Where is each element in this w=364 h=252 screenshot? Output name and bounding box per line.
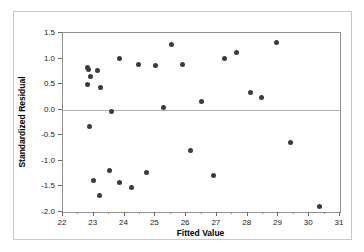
- x-axis-tick-label: 28: [242, 218, 251, 227]
- data-point: [117, 56, 122, 61]
- x-axis-tick-mark: [185, 212, 186, 216]
- y-axis-tick-mark: [58, 109, 62, 110]
- data-point: [222, 56, 227, 61]
- zero-reference-line: [63, 110, 340, 111]
- y-axis-tick-mark: [58, 83, 62, 84]
- x-axis-tick-label: 22: [58, 218, 67, 227]
- x-axis-title: Fitted Value: [62, 228, 339, 238]
- x-axis-tick-label: 26: [181, 218, 190, 227]
- data-point: [107, 168, 112, 173]
- y-axis-tick-mark: [58, 185, 62, 186]
- x-axis-minor-tick-mark: [108, 212, 109, 214]
- plot-area: [62, 32, 341, 213]
- data-point: [144, 170, 149, 175]
- data-point: [95, 68, 100, 73]
- data-point: [169, 42, 174, 47]
- data-point: [234, 50, 239, 55]
- y-axis-tick-mark: [58, 32, 62, 33]
- y-axis-tick-mark: [58, 160, 62, 161]
- data-point: [153, 63, 158, 68]
- scatter-plot: 1.51.00.50.0-0.5-1.0-1.5-2.0 22232425262…: [0, 0, 364, 252]
- data-point: [97, 193, 102, 198]
- y-axis-tick-label: -1.0: [41, 155, 55, 164]
- x-axis-minor-tick-mark: [170, 212, 171, 214]
- data-point: [199, 99, 204, 104]
- figure-canvas: 1.51.00.50.0-0.5-1.0-1.5-2.0 22232425262…: [0, 0, 364, 252]
- x-axis-minor-tick-mark: [77, 212, 78, 214]
- x-axis-tick-mark: [308, 212, 309, 216]
- x-axis-minor-tick-mark: [262, 212, 263, 214]
- data-point: [88, 74, 93, 79]
- x-axis-tick-mark: [154, 212, 155, 216]
- x-axis-tick-label: 31: [335, 218, 344, 227]
- data-point: [188, 148, 193, 153]
- y-axis-tick-label: -0.5: [41, 130, 55, 139]
- x-axis-tick-mark: [247, 212, 248, 216]
- y-axis-tick-label: 1.5: [44, 28, 55, 37]
- x-axis-tick-mark: [339, 212, 340, 216]
- y-axis-tick-mark: [58, 134, 62, 135]
- data-point: [136, 62, 141, 67]
- y-axis-title-text: Standardized Residual: [17, 76, 27, 167]
- x-axis-tick-label: 29: [273, 218, 282, 227]
- y-axis-title: Standardized Residual: [16, 32, 28, 211]
- data-point: [87, 124, 92, 129]
- data-point: [85, 82, 90, 87]
- data-point: [91, 178, 96, 183]
- x-axis-minor-tick-mark: [201, 212, 202, 214]
- data-point: [129, 185, 134, 190]
- x-axis-minor-tick-mark: [293, 212, 294, 214]
- y-axis-tick-label: -1.5: [41, 181, 55, 190]
- data-point: [86, 67, 91, 72]
- y-axis-tick-label: 0.5: [44, 79, 55, 88]
- data-point: [98, 85, 103, 90]
- data-point: [288, 140, 293, 145]
- data-point: [248, 90, 253, 95]
- y-axis-tick-label: 0.0: [44, 104, 55, 113]
- data-point: [317, 204, 322, 209]
- x-axis-tick-mark: [124, 212, 125, 216]
- x-axis-minor-tick-mark: [139, 212, 140, 214]
- data-point: [117, 180, 122, 185]
- x-axis-minor-tick-mark: [324, 212, 325, 214]
- x-axis-minor-tick-mark: [231, 212, 232, 214]
- x-axis-tick-mark: [62, 212, 63, 216]
- x-axis-tick-label: 24: [119, 218, 128, 227]
- x-axis-tick-label: 30: [304, 218, 313, 227]
- y-axis-tick-label: -2.0: [41, 207, 55, 216]
- x-axis-tick-mark: [216, 212, 217, 216]
- x-axis-tick-mark: [93, 212, 94, 216]
- data-point: [180, 62, 185, 67]
- x-axis-tick-label: 23: [88, 218, 97, 227]
- data-point: [211, 173, 216, 178]
- x-axis-tick-label: 27: [211, 218, 220, 227]
- data-point: [109, 109, 114, 114]
- y-axis-tick-label: 1.0: [44, 53, 55, 62]
- data-point: [259, 95, 264, 100]
- x-axis-tick-label: 25: [150, 218, 159, 227]
- x-axis-tick-mark: [277, 212, 278, 216]
- data-point: [274, 40, 279, 45]
- y-axis-tick-mark: [58, 58, 62, 59]
